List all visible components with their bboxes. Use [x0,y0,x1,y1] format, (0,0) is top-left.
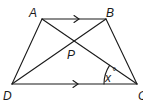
diagonal-ac [42,19,137,84]
trapezium-diagram: A B P D C x ° [0,0,143,104]
angle-degree-symbol: ° [112,66,116,77]
angle-label-x: x [104,71,112,85]
vertex-label-d: D [3,89,12,103]
diagonal-bd [12,19,106,84]
vertex-label-a: A [28,6,37,20]
vertex-label-p: P [67,48,75,62]
vertex-label-b: B [106,6,114,20]
vertex-label-c: C [138,89,143,103]
